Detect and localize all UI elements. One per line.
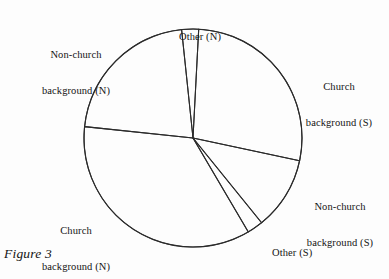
slice-label-other-s-line1: Other (S) [272, 247, 342, 259]
figure-caption: Figure 3 [4, 246, 52, 262]
slice-label-nonchurch-n: Non-church background (N) [18, 24, 134, 122]
slice-label-nonchurch-n-line1: Non-church [18, 49, 134, 61]
figure-container: Other (N) Non-church background (N) Chur… [0, 0, 389, 279]
slice-label-church-s-line1: Church [292, 81, 386, 93]
slice-label-church-n-line2: background (N) [18, 261, 134, 273]
slice-label-church-n-line1: Church [18, 225, 134, 237]
slice-label-other-n-line1: Other (N) [148, 31, 252, 43]
slice-label-nonchurch-n-line2: background (N) [18, 85, 134, 97]
slice-label-church-s: Church background (S) [292, 56, 386, 154]
slice-label-other-n: Other (N) [148, 6, 252, 67]
slice-label-other-s: Other (S) [272, 222, 342, 279]
slice-label-nonchurch-s-line1: Non-church [292, 201, 388, 213]
slice-label-church-n: Church background (N) [18, 200, 134, 279]
slice-label-church-s-line2: background (S) [292, 117, 386, 129]
